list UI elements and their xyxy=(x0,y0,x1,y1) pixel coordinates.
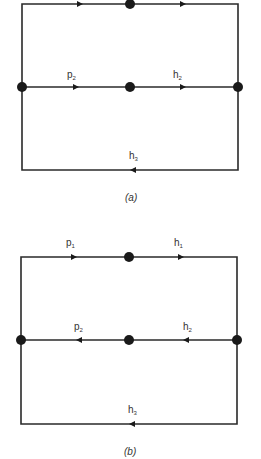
node xyxy=(233,82,243,92)
caption-b: (b) xyxy=(124,446,136,457)
edge-label-p2: p2 xyxy=(74,321,84,333)
node xyxy=(124,335,134,345)
node xyxy=(125,0,135,9)
caption-a: (a) xyxy=(125,192,137,203)
edge-label-p1: p1 xyxy=(66,237,76,249)
node xyxy=(16,335,26,345)
node xyxy=(125,82,135,92)
edge-label-p2: p2 xyxy=(67,69,77,81)
edge-label-h3: h3 xyxy=(129,150,139,162)
edge-label-h1: h1 xyxy=(174,237,184,249)
edge-label-h2: h2 xyxy=(173,69,183,81)
diagram-canvas: p2 h2 h3 (a) p1 h1 p2 h2 h3 (b) xyxy=(0,0,261,459)
node xyxy=(17,82,27,92)
edge-label-h2: h2 xyxy=(183,321,193,333)
arrow-left-icon xyxy=(183,337,189,343)
node xyxy=(232,335,242,345)
arrow-left-icon xyxy=(76,337,82,343)
diagram-a: p2 h2 h3 (a) xyxy=(17,0,243,203)
edge-label-h3: h3 xyxy=(128,404,138,416)
arrow-right-icon xyxy=(73,84,79,90)
arrow-right-icon xyxy=(180,1,186,7)
arrow-left-icon xyxy=(129,421,135,427)
arrow-right-icon xyxy=(71,254,77,260)
arrow-left-icon xyxy=(130,167,136,173)
arrow-right-icon xyxy=(180,84,186,90)
node xyxy=(124,252,134,262)
arrow-right-icon xyxy=(178,254,184,260)
arrow-right-icon xyxy=(77,1,83,7)
diagram-b: p1 h1 p2 h2 h3 (b) xyxy=(16,237,242,457)
